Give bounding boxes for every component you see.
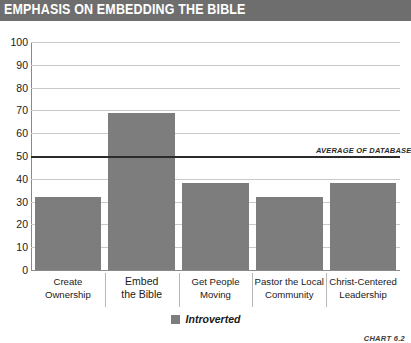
x-axis-category-3: Get PeopleMoving bbox=[179, 271, 253, 311]
gridline bbox=[31, 88, 400, 89]
gridline bbox=[31, 65, 400, 66]
title-banner: EMPHASIS ON EMBEDDING THE BIBLE bbox=[0, 0, 411, 21]
gridline bbox=[31, 179, 400, 180]
legend-label: Introverted bbox=[186, 313, 241, 325]
bar bbox=[256, 197, 323, 270]
y-axis-tick-label: 100 bbox=[2, 37, 28, 47]
category-label-line: Get People bbox=[191, 275, 239, 288]
y-axis-tick-label: 40 bbox=[2, 174, 28, 184]
y-axis-tick-label: 0 bbox=[2, 265, 28, 275]
y-axis-tick-label: 30 bbox=[2, 197, 28, 207]
category-label-line: Leadership bbox=[339, 288, 386, 301]
category-label-line: Create bbox=[54, 275, 83, 288]
x-axis-category-5: Christ-CenteredLeadership bbox=[326, 271, 400, 311]
category-label-line: Moving bbox=[200, 288, 231, 301]
category-label-line: Community bbox=[265, 288, 314, 301]
category-label-line: Ownership bbox=[45, 288, 91, 301]
chart-number-label: CHART 6.2 bbox=[364, 334, 405, 343]
y-axis-labels: 0102030405060708090100 bbox=[0, 42, 28, 270]
y-axis-tick-label: 10 bbox=[2, 242, 28, 252]
x-axis-category-2: Embedthe Bible bbox=[105, 271, 179, 311]
x-axis-category-4: Pastor the LocalCommunity bbox=[252, 271, 326, 311]
x-axis-category-labels: CreateOwnershipEmbedthe BibleGet PeopleM… bbox=[31, 271, 400, 311]
chart-container: 0102030405060708090100 AVERAGE OF DATABA… bbox=[0, 21, 411, 333]
y-axis-tick-label: 60 bbox=[2, 128, 28, 138]
chart-legend: Introverted bbox=[0, 313, 411, 325]
y-axis-tick-label: 70 bbox=[2, 105, 28, 115]
x-axis-category-1: CreateOwnership bbox=[31, 271, 105, 311]
category-label-line: Pastor the Local bbox=[255, 275, 324, 288]
bar bbox=[108, 113, 175, 270]
average-reference-label: AVERAGE OF DATABASE bbox=[316, 146, 411, 155]
bar bbox=[35, 197, 102, 270]
gridline bbox=[31, 133, 400, 134]
y-axis-tick-label: 20 bbox=[2, 219, 28, 229]
legend-swatch-icon bbox=[171, 315, 180, 324]
y-axis-tick-label: 50 bbox=[2, 151, 28, 161]
category-label-line: Embed bbox=[125, 275, 158, 288]
bar bbox=[330, 183, 397, 270]
category-label-line: the Bible bbox=[121, 288, 162, 301]
gridline bbox=[31, 110, 400, 111]
page-title: EMPHASIS ON EMBEDDING THE BIBLE bbox=[4, 0, 246, 19]
bar bbox=[182, 183, 249, 270]
y-axis-tick-label: 80 bbox=[2, 83, 28, 93]
average-reference-line bbox=[31, 156, 400, 158]
category-label-line: Christ-Centered bbox=[329, 275, 397, 288]
y-axis-tick-label: 90 bbox=[2, 60, 28, 70]
gridline bbox=[31, 42, 400, 43]
